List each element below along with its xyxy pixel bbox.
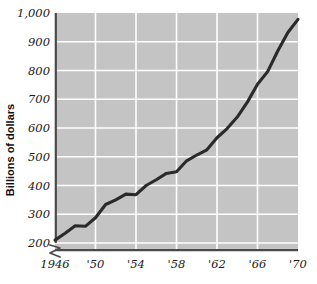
x-tick-label: '54 bbox=[127, 257, 145, 271]
y-axis-title: Billions of dollars bbox=[4, 104, 16, 196]
y-tick-label: 800 bbox=[28, 64, 50, 78]
y-tick-label: 300 bbox=[28, 207, 50, 221]
y-tick-label: 1,000 bbox=[17, 6, 50, 20]
y-tick-label: 900 bbox=[28, 35, 50, 49]
y-tick-label: 700 bbox=[28, 92, 50, 106]
x-tick-label: 1946 bbox=[40, 257, 69, 271]
y-tick-label: 400 bbox=[27, 179, 50, 193]
chart-container: 2003004005006007008009001,000 1946'50'54… bbox=[0, 0, 317, 284]
y-tick-label: 600 bbox=[28, 121, 50, 135]
x-tick-label: '62 bbox=[208, 257, 226, 271]
x-tick-label: '66 bbox=[249, 257, 267, 271]
x-tick-label: '50 bbox=[87, 257, 105, 271]
line-chart: 2003004005006007008009001,000 1946'50'54… bbox=[0, 0, 317, 284]
x-tick-label: '58 bbox=[168, 257, 186, 271]
y-tick-label: 200 bbox=[27, 236, 50, 250]
y-tick-label: 500 bbox=[28, 150, 50, 164]
x-tick-label: '70 bbox=[289, 257, 307, 271]
